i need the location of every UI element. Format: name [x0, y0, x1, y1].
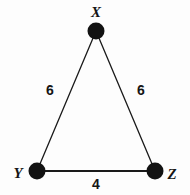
edge-length-label-xz: 6 — [137, 83, 145, 97]
vertex-dot-z — [147, 163, 164, 180]
vertex-label-y: Y — [13, 166, 22, 181]
triangle-graphic — [0, 0, 190, 195]
edge-length-label-yz: 4 — [92, 177, 100, 191]
triangle-diagram: X Y Z 6 6 4 — [0, 0, 190, 195]
vertex-label-x: X — [91, 5, 101, 20]
edge-xy — [37, 31, 96, 171]
vertex-label-z: Z — [167, 167, 176, 182]
edge-xz — [96, 31, 155, 171]
edge-length-label-xy: 6 — [46, 83, 54, 97]
vertex-dot-x — [88, 23, 105, 40]
vertex-dot-y — [29, 163, 46, 180]
